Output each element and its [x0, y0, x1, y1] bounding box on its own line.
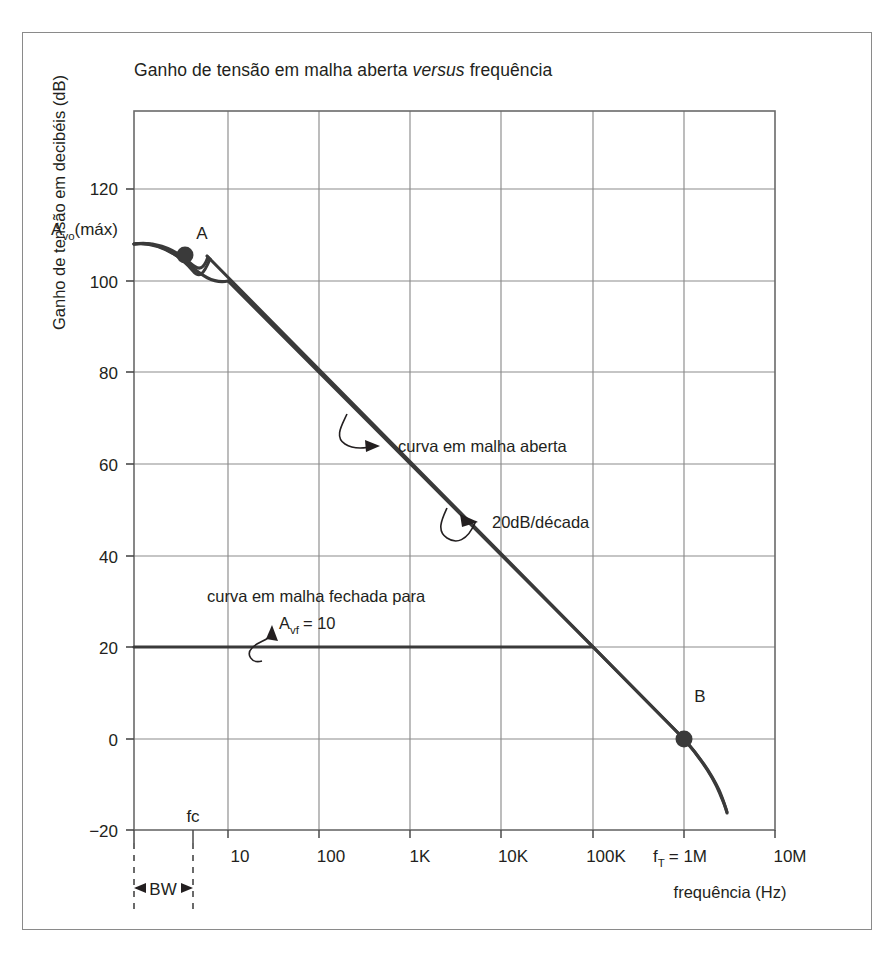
bw-arrow-head-left [134, 883, 146, 893]
open-loop-tail-path [684, 739, 727, 813]
annotation-open-loop-text: curva em malha aberta [398, 437, 568, 455]
y-axis-ticks [126, 189, 134, 830]
bw-label: BW [149, 880, 176, 899]
annotation-slope-arrowhead [460, 514, 478, 527]
ft-value: = 1M [669, 847, 707, 866]
ytick-label-60: 60 [99, 456, 118, 475]
xtick-label-10: 10 [231, 847, 250, 866]
open-loop-path [134, 244, 727, 812]
data-point-a-label: A [196, 224, 208, 243]
bandwidth-indicator: BW [134, 843, 193, 910]
avf-base: A [279, 614, 290, 632]
ytick-label-20: 20 [99, 639, 118, 658]
ytick-label-100: 100 [90, 273, 118, 292]
data-point-a [177, 247, 194, 264]
open-loop-knee-path [134, 243, 210, 274]
ytick-label-40: 40 [99, 548, 118, 567]
annotation-closed-loop-line1: curva em malha fechada para [207, 587, 426, 605]
figure-container: Ganho de tensão em malha aberta versus f… [0, 0, 893, 953]
xtick-label-1K: 1K [410, 847, 431, 866]
y-axis-tick-labels: 120 100 80 60 40 20 0 −20 [89, 180, 118, 841]
avo-max-base: A [51, 220, 63, 239]
xtick-label-100K: 100K [586, 847, 626, 866]
plot-area-rect [134, 111, 775, 830]
bw-arrow-head-right [181, 883, 193, 893]
open-loop-knee [134, 243, 210, 274]
avo-max-rest: (máx) [75, 220, 118, 239]
xtick-label-1M-ft: fT= 1M [653, 847, 707, 869]
avf-value: = 10 [303, 614, 336, 632]
fc-label: fc [186, 807, 200, 826]
grid-lines [134, 111, 775, 830]
xtick-label-100: 100 [317, 847, 345, 866]
annotation-slope: 20dB/década [441, 508, 590, 541]
open-loop-plateau [134, 243, 208, 268]
ft-subscript: T [658, 857, 665, 869]
data-point-b-label: B [694, 687, 705, 706]
open-loop-linear-segment [207, 256, 684, 739]
avo-max-label: Avo(máx) [51, 220, 118, 242]
annotation-slope-text: 20dB/década [492, 513, 590, 531]
xtick-label-10K: 10K [498, 847, 529, 866]
open-loop-slope-line [207, 256, 684, 739]
data-points: A B [177, 224, 706, 748]
annotation-open-loop: curva em malha aberta [339, 414, 567, 455]
annotation-closed-loop-line2: Avf= 10 [279, 614, 336, 636]
annotation-open-loop-arrowhead [365, 440, 380, 452]
open-loop-plateau-path [134, 243, 208, 268]
chart-plot: 120 100 80 60 40 20 0 −20 Avo(máx) [0, 0, 893, 953]
avo-max-subscript: vo [62, 230, 74, 242]
ytick-label-0: 0 [109, 731, 118, 750]
xtick-label-10M: 10M [773, 847, 806, 866]
x-axis-label: frequência (Hz) [674, 883, 787, 901]
ytick-label-120: 120 [90, 180, 118, 199]
x-axis-ticks [134, 830, 775, 843]
open-loop-tail [684, 739, 727, 813]
open-loop-curve [134, 244, 727, 812]
avf-subscript: vf [290, 624, 300, 636]
annotation-closed-loop-arrowhead [266, 625, 278, 641]
plot-border [134, 111, 775, 830]
data-point-b [676, 731, 693, 748]
ytick-label-80: 80 [99, 364, 118, 383]
annotation-closed-loop: curva em malha fechada para Avf= 10 [207, 587, 426, 662]
ytick-label-neg20: −20 [89, 822, 118, 841]
x-axis-tick-labels: 10 100 1K 10K 100K fT= 1M 10M [231, 847, 807, 869]
